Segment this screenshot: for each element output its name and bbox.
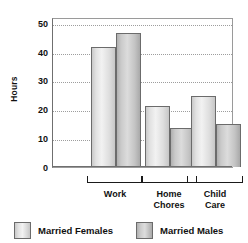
legend-item[interactable]: Married Females — [14, 222, 113, 239]
y-axis-tick-label: 30 — [22, 77, 48, 86]
category-label-line: Care — [175, 200, 248, 211]
legend-label: Married Males — [160, 225, 223, 236]
plot-area — [52, 18, 233, 168]
x-axis-baseline — [53, 166, 232, 167]
category-label-line: Child — [175, 189, 248, 200]
category-bracket — [187, 176, 243, 183]
y-axis-tick-label: 0 — [22, 164, 48, 173]
legend-swatch — [14, 222, 31, 239]
chart-legend: Married FemalesMarried Males — [0, 222, 248, 243]
y-axis-title: Hours — [9, 59, 19, 119]
bar-chart: Hours 01020304050 WorkHomeChoresChildCar… — [0, 0, 248, 243]
bars-layer — [53, 19, 232, 167]
y-axis-tick-label: 20 — [22, 106, 48, 115]
bar — [191, 96, 216, 167]
category-bracket — [87, 176, 143, 183]
bar — [216, 124, 241, 167]
y-axis-tick-labels: 01020304050 — [22, 18, 48, 168]
y-axis-tick-label: 50 — [22, 19, 48, 28]
y-axis-tick-label: 10 — [22, 135, 48, 144]
bar — [145, 106, 170, 167]
y-axis-tick-label: 40 — [22, 48, 48, 57]
legend-item[interactable]: Married Males — [136, 222, 223, 239]
legend-swatch — [136, 222, 153, 239]
legend-label: Married Females — [38, 225, 113, 236]
bar — [116, 33, 141, 167]
bar — [91, 47, 116, 167]
category-label: ChildCare — [175, 189, 248, 211]
